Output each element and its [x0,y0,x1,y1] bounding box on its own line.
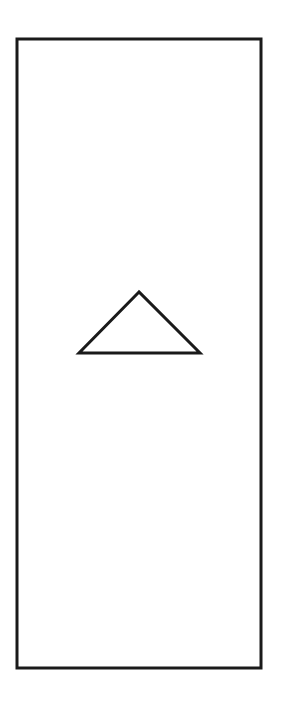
triangle-up-icon [79,292,200,353]
diagram-canvas [0,0,281,713]
